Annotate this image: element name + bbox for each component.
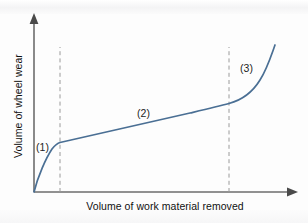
y-axis-arrowhead [30,13,39,24]
region-label-3: (3) [240,62,253,74]
y-axis-title: Volume of wheel wear [12,36,24,176]
region-label-1: (1) [36,141,49,153]
plot-area [0,0,308,223]
x-axis-title: Volume of work material removed [0,200,308,212]
wheel-wear-curve [34,45,275,192]
x-axis-arrowhead [287,188,298,197]
region-label-2: (2) [137,107,150,119]
wheel-wear-chart: (1) (2) (3) Volume of work material remo… [0,0,308,223]
